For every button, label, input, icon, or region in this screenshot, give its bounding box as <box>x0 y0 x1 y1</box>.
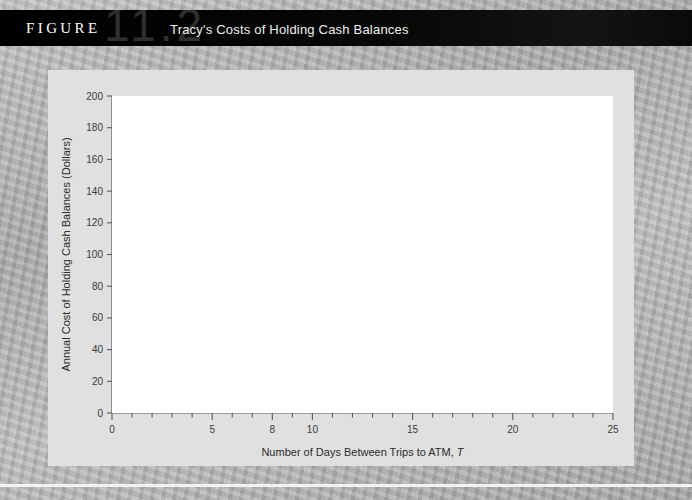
figure-title: Tracy's Costs of Holding Cash Balances <box>170 22 409 37</box>
y-tick-label: 200 <box>86 91 103 102</box>
x-tick-label: 25 <box>607 424 619 435</box>
y-tick-label: 100 <box>86 249 103 260</box>
page-bottom-rule <box>0 484 692 487</box>
plot-background <box>112 96 613 413</box>
x-axis-title: Number of Days Between Trips to ATM, T <box>261 446 464 458</box>
y-tick-label: 40 <box>92 344 104 355</box>
y-tick-label: 80 <box>92 281 104 292</box>
x-tick-label: 10 <box>307 424 319 435</box>
x-tick-label: 20 <box>507 424 519 435</box>
x-tick-label: 15 <box>407 424 419 435</box>
y-tick-label: 180 <box>86 122 103 133</box>
y-tick-label: 20 <box>92 376 104 387</box>
y-tick-label: 120 <box>86 217 103 228</box>
y-tick-label: 0 <box>97 408 103 419</box>
y-tick-label: 160 <box>86 154 103 165</box>
figure-header-bar: 11.2 FIGURE Tracy's Costs of Holding Cas… <box>0 10 692 46</box>
x-tick-label: 8 <box>270 424 276 435</box>
y-axis-title: Annual Cost of Holding Cash Balances (Do… <box>60 137 72 371</box>
x-tick-label: 0 <box>109 424 115 435</box>
y-tick-label: 60 <box>92 312 104 323</box>
y-tick-label: 140 <box>86 186 103 197</box>
figure-label: FIGURE <box>26 20 101 37</box>
x-tick-label: 5 <box>209 424 215 435</box>
figure-panel: 02040608010012014016018020005810152025Nu… <box>48 70 634 466</box>
